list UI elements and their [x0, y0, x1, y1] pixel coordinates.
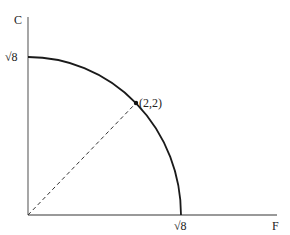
y-axis-label: C [14, 14, 22, 26]
x-axis-label: F [272, 220, 279, 232]
frontier-curve [28, 57, 181, 215]
dashed-ray [28, 103, 136, 215]
y-tick-label: √8 [5, 51, 18, 63]
chart-canvas [0, 0, 290, 235]
point-2-2 [134, 101, 138, 105]
point-label: (2,2) [139, 97, 162, 109]
x-tick-label: √8 [174, 220, 187, 232]
